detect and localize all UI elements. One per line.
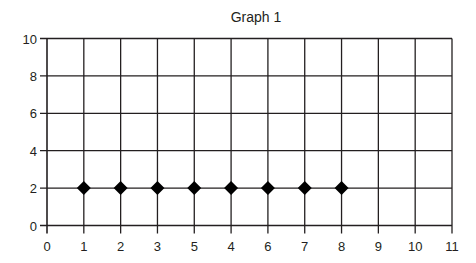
x-tick-label: 1 — [80, 239, 87, 254]
diamond-marker-icon — [150, 181, 164, 195]
diamond-marker-icon — [187, 181, 201, 195]
chart-title: Graph 1 — [231, 9, 282, 25]
x-tick-label: 9 — [375, 239, 382, 254]
y-tick-label: 2 — [30, 181, 37, 196]
x-tick-label: 11 — [445, 239, 459, 254]
x-tick-label: 2 — [117, 239, 124, 254]
x-tick-label: 3 — [154, 239, 161, 254]
y-tick-label: 6 — [30, 106, 37, 121]
y-axis-ticks: 0246810 — [23, 32, 37, 234]
x-tick-label: 8 — [338, 239, 345, 254]
x-tick-label: 4 — [227, 239, 234, 254]
diamond-marker-icon — [335, 181, 349, 195]
diamond-marker-icon — [77, 181, 91, 195]
diamond-marker-icon — [261, 181, 275, 195]
x-tick-label: 6 — [264, 239, 271, 254]
diamond-marker-icon — [114, 181, 128, 195]
x-tick-label: 0 — [43, 239, 50, 254]
y-tick-label: 8 — [30, 69, 37, 84]
y-tick-label: 4 — [30, 144, 37, 159]
plot-grid — [40, 39, 452, 234]
y-tick-label: 10 — [23, 32, 37, 47]
x-tick-label: 7 — [301, 239, 308, 254]
diamond-marker-icon — [298, 181, 312, 195]
chart: Graph 1 0246810 01235467891011 — [0, 0, 476, 263]
x-axis-ticks: 01235467891011 — [43, 239, 458, 254]
x-tick-label: 10 — [408, 239, 422, 254]
y-tick-label: 0 — [30, 219, 37, 234]
diamond-marker-icon — [224, 181, 238, 195]
x-tick-label: 5 — [191, 239, 198, 254]
